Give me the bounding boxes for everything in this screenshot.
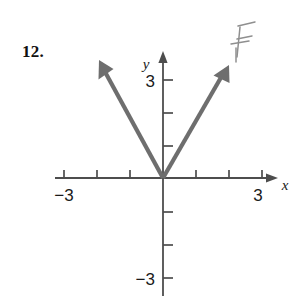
graph-ray-right xyxy=(163,74,223,178)
y-tick-label-neg3: −3 xyxy=(136,270,155,289)
x-axis-arrowhead xyxy=(266,173,278,182)
x-axis-label: x xyxy=(281,177,289,193)
worksheet-page: 12. xyxy=(0,0,295,302)
y-axis-ticks xyxy=(163,80,173,278)
y-axis-arrowhead xyxy=(158,51,167,63)
x-tick-label-neg3: −3 xyxy=(54,186,73,205)
y-tick-label-3: 3 xyxy=(146,72,155,91)
handwritten-f-icon xyxy=(231,22,255,62)
y-axis-label: y xyxy=(141,56,150,72)
graph-figure: y x 3 −3 −3 3 xyxy=(0,0,295,302)
graph-curve-group xyxy=(99,60,230,178)
x-tick-label-3: 3 xyxy=(253,186,262,205)
